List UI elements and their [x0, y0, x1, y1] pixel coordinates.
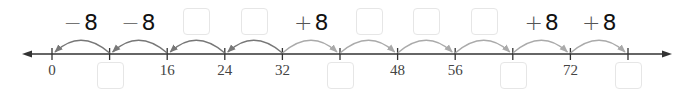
- tick-answer-box[interactable]: [97, 62, 124, 89]
- forward-jump-arc: [282, 40, 337, 53]
- jump-amount: 8: [602, 10, 616, 35]
- backward-jump-arc: [228, 40, 283, 53]
- backward-jump-arc: [55, 40, 110, 53]
- forward-jump-arc: [340, 40, 395, 53]
- tick-label: 24: [217, 62, 232, 79]
- tick-label: 56: [448, 62, 463, 79]
- jump-sign: +: [524, 10, 542, 35]
- jump-sign: −: [121, 10, 139, 35]
- jump-sign: −: [64, 10, 82, 35]
- jump-sign: +: [582, 10, 600, 35]
- forward-jump-arc: [398, 40, 453, 53]
- jump-label: −8: [64, 10, 98, 35]
- left-arrowhead-icon: [22, 51, 32, 58]
- tick-label: 16: [160, 62, 175, 79]
- jump-sign: +: [294, 10, 312, 35]
- tick-answer-box[interactable]: [327, 62, 354, 89]
- jump-amount: 8: [84, 10, 98, 35]
- jump-label: −8: [121, 10, 155, 35]
- jump-label: +8: [524, 10, 558, 35]
- jump-answer-box[interactable]: [356, 8, 383, 35]
- forward-jump-arc: [570, 40, 625, 53]
- jump-answer-box[interactable]: [471, 8, 498, 35]
- jump-amount: 8: [545, 10, 559, 35]
- right-arrowhead-icon: [662, 51, 672, 58]
- tick-label: 48: [390, 62, 405, 79]
- jump-amount: 8: [142, 10, 156, 35]
- jump-label: +8: [294, 10, 328, 35]
- jump-answer-box[interactable]: [241, 8, 268, 35]
- tick-answer-box[interactable]: [615, 62, 642, 89]
- forward-jump-arc: [455, 40, 510, 53]
- jump-answer-box[interactable]: [183, 8, 210, 35]
- tick-label: 32: [275, 62, 290, 79]
- backward-jump-arc: [170, 40, 225, 53]
- backward-jump-arc: [113, 40, 168, 53]
- forward-jump-arc: [513, 40, 568, 53]
- axis-line: [22, 51, 672, 58]
- jump-amount: 8: [314, 10, 328, 35]
- tick-answer-box[interactable]: [500, 62, 527, 89]
- tick-label: 0: [48, 62, 56, 79]
- jump-answer-box[interactable]: [413, 8, 440, 35]
- tick-label: 72: [563, 62, 578, 79]
- jump-label: +8: [582, 10, 616, 35]
